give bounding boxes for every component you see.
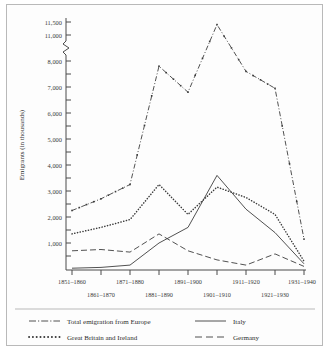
data-point-marker bbox=[93, 201, 95, 203]
data-point-marker bbox=[209, 41, 211, 43]
x-tick-label: 1921–1930 bbox=[261, 291, 289, 298]
data-point-marker bbox=[202, 58, 204, 60]
data-point-marker bbox=[86, 204, 88, 206]
y-axis: 11,500 11,000 8,000 7,000 6,000 5,000 4,… bbox=[45, 18, 71, 270]
data-point-marker bbox=[303, 238, 305, 240]
data-point-marker bbox=[231, 47, 233, 49]
legend-item-great-britain-and-ireland[interactable]: Great Britain and Ireland bbox=[29, 334, 138, 342]
y-tick-label: 1,000 bbox=[48, 240, 62, 247]
data-point-marker bbox=[289, 163, 291, 165]
data-point-marker bbox=[274, 88, 276, 90]
legend-item-italy[interactable]: Italy bbox=[195, 318, 246, 326]
y-axis-ticks bbox=[66, 22, 71, 256]
data-point-marker bbox=[216, 24, 218, 26]
legend-label: Germany bbox=[233, 334, 260, 342]
x-tick-label: 1911–1920 bbox=[232, 278, 260, 285]
y-tick-label: 11,000 bbox=[45, 32, 62, 39]
x-tick-label: 1871–1880 bbox=[116, 278, 144, 285]
data-point-marker bbox=[252, 75, 254, 77]
series-germany bbox=[72, 234, 304, 267]
y-tick-label: 4,000 bbox=[48, 162, 62, 169]
legend-label: Italy bbox=[233, 318, 246, 326]
data-point-marker bbox=[267, 83, 269, 85]
data-point-marker bbox=[194, 75, 196, 77]
y-tick-label: 2,000 bbox=[48, 214, 62, 221]
x-tick-label: 1931–1940 bbox=[288, 278, 316, 285]
data-point-marker bbox=[158, 65, 160, 67]
y-axis-line bbox=[63, 18, 69, 270]
data-point-marker bbox=[136, 154, 138, 156]
data-point-marker bbox=[223, 36, 225, 38]
legend-label: Total emigration from Europe bbox=[67, 318, 151, 326]
data-point-marker bbox=[129, 184, 131, 186]
data-point-marker bbox=[71, 210, 73, 212]
data-point-marker bbox=[165, 72, 167, 74]
y-tick-label: 7,000 bbox=[48, 84, 62, 91]
y-tick-label: 8,000 bbox=[48, 58, 62, 65]
data-point-marker bbox=[281, 125, 283, 127]
series-total-emigration-from-europe bbox=[72, 25, 304, 240]
y-tick-label: 6,000 bbox=[48, 110, 62, 117]
data-point-marker bbox=[108, 194, 110, 196]
data-point-marker bbox=[238, 59, 240, 61]
data-point-marker bbox=[260, 79, 262, 81]
legend-label: Great Britain and Ireland bbox=[67, 334, 138, 342]
legend-item-germany[interactable]: Germany bbox=[195, 334, 260, 342]
data-point-marker bbox=[79, 207, 81, 209]
x-axis: 1851–1860 1871–1880 1891–1900 1911–1920 … bbox=[58, 270, 316, 298]
data-point-marker bbox=[144, 125, 146, 127]
data-point-marker bbox=[122, 187, 124, 189]
x-tick-label: 1901–1910 bbox=[203, 291, 231, 298]
data-point-marker bbox=[173, 78, 175, 80]
data-point-marker bbox=[296, 201, 298, 203]
x-tick-label: 1851–1860 bbox=[58, 278, 86, 285]
x-tick-label: 1881–1890 bbox=[145, 291, 173, 298]
data-point-marker bbox=[115, 191, 117, 193]
chart-figure: 11,500 11,000 8,000 7,000 6,000 5,000 4,… bbox=[6, 4, 323, 346]
y-axis-title: Emigrants (in thousands) bbox=[18, 109, 26, 180]
emigration-line-chart: 11,500 11,000 8,000 7,000 6,000 5,000 4,… bbox=[7, 5, 324, 347]
data-point-marker bbox=[151, 95, 153, 97]
x-axis-ticks bbox=[72, 270, 304, 275]
data-point-marker bbox=[245, 71, 247, 73]
series-total-markers bbox=[71, 24, 305, 240]
x-tick-label: 1891–1900 bbox=[174, 278, 202, 285]
x-tick-label: 1861–1870 bbox=[87, 291, 115, 298]
legend-item-total-emigration-from-europe[interactable]: Total emigration from Europe bbox=[29, 318, 151, 326]
y-tick-label: 5,000 bbox=[48, 136, 62, 143]
data-point-marker bbox=[100, 198, 102, 200]
legend: Total emigration from Europe Italy Great… bbox=[29, 318, 260, 342]
series-italy bbox=[72, 175, 304, 268]
data-point-marker bbox=[187, 91, 189, 93]
data-point-marker bbox=[180, 85, 182, 87]
series-layer bbox=[71, 24, 305, 268]
y-tick-label: 3,000 bbox=[48, 188, 62, 195]
y-tick-label: 11,500 bbox=[45, 19, 62, 26]
